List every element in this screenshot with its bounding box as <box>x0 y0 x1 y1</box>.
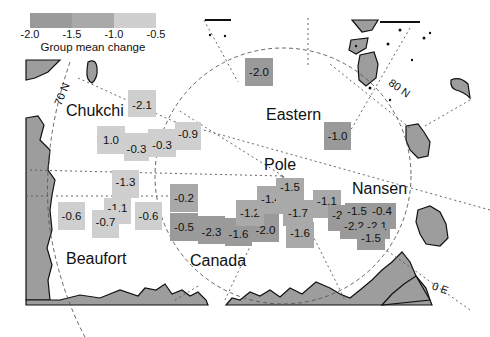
cell-value: -1.0 <box>328 130 348 142</box>
cell-value: -1.5 <box>361 232 381 244</box>
grid-cell: -0.3 <box>124 133 149 161</box>
cell-value: -1.6 <box>229 228 249 240</box>
grid-cell: -1.6 <box>286 222 314 248</box>
cell-value: 1.0 <box>103 134 119 146</box>
land-south <box>26 284 208 305</box>
grid-cell: -0.6 <box>135 202 162 230</box>
legend-title: Group mean change <box>30 41 156 53</box>
region-label-pole: Pole <box>264 156 296 174</box>
grid-cell: -2.1 <box>128 90 156 117</box>
cell-value: -1.5 <box>280 181 300 193</box>
legend-tick: -0.5 <box>147 28 166 40</box>
legend-tick: -1.5 <box>62 28 81 40</box>
cell-value: -0.9 <box>178 128 198 140</box>
cell-value: -0.3 <box>152 139 172 151</box>
cell-value: -0.6 <box>62 210 82 222</box>
land-franz-josef <box>406 124 430 158</box>
legend-swatch-dark <box>30 13 72 28</box>
grid-cell: -0.7 <box>92 210 119 238</box>
land-northeast-2 <box>349 38 368 54</box>
island-wrangel <box>87 61 97 83</box>
legend-swatch-mid <box>72 13 114 28</box>
grid-cell: 1.0 <box>97 126 125 154</box>
land-northeast-4 <box>451 79 470 98</box>
grid-cell: -0.2 <box>170 184 198 212</box>
legend-colorbar <box>30 13 156 28</box>
grid-cell: -0.9 <box>175 122 201 150</box>
cell-value: -1.6 <box>290 227 310 239</box>
grid-cell: -0.5 <box>170 213 198 241</box>
grid-cell: -0.3 <box>148 129 176 157</box>
region-label-nansen: Nansen <box>352 180 407 198</box>
cell-value: -1.3 <box>116 176 136 188</box>
cell-value: -2.3 <box>202 226 222 238</box>
region-label-chukchi: Chukchi <box>66 102 124 120</box>
grid-cell: -1.0 <box>324 122 351 150</box>
grid-cell: -1.3 <box>112 170 139 198</box>
land-northeast-1 <box>352 20 378 32</box>
grid-cell: -1.5 <box>357 228 385 250</box>
legend-tick: -1.0 <box>104 28 123 40</box>
cell-value: -0.5 <box>174 221 194 233</box>
cell-value: -1.7 <box>288 207 308 219</box>
legend: -2.0 -1.5 -1.0 -0.5 Group mean change <box>30 13 156 53</box>
cell-value: -2.0 <box>249 66 269 78</box>
region-label-canada: Canada <box>190 252 246 270</box>
cell-value: -2.1 <box>132 99 152 111</box>
region-label-eastern: Eastern <box>266 106 321 124</box>
legend-ticks: -2.0 -1.5 -1.0 -0.5 <box>30 28 156 41</box>
cell-value: -0.3 <box>127 143 147 155</box>
legend-swatch-light <box>114 13 156 28</box>
grid-cell: -0.6 <box>58 202 85 230</box>
legend-tick: -2.0 <box>21 28 40 40</box>
land-west-coast <box>26 116 55 300</box>
grid-cell: -2.3 <box>198 216 225 244</box>
land-west <box>26 60 60 80</box>
region-label-beaufort: Beaufort <box>66 250 126 268</box>
cell-value: -0.7 <box>96 216 116 228</box>
grid-cell: -2.0 <box>245 58 273 86</box>
cell-value: -0.2 <box>174 192 194 204</box>
land-svalbard <box>416 206 448 246</box>
cell-value: -0.6 <box>139 210 159 222</box>
